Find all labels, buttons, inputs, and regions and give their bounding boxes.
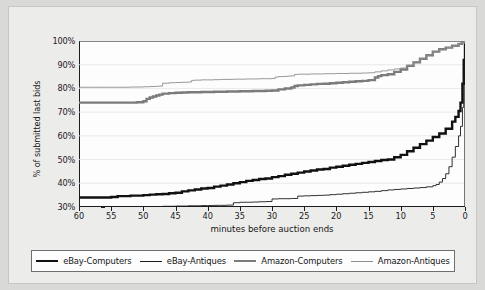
x-tick-mark (240, 207, 241, 211)
y-tick-label: 70% (15, 107, 75, 117)
chart-panel: % of submitted last bids 30%40%50%60%70%… (8, 6, 477, 284)
legend-item[interactable]: Amazon-Antiques (351, 256, 450, 266)
chart-legend: eBay-ComputerseBay-AntiquesAmazon-Comput… (31, 250, 455, 272)
x-tick-mark (208, 207, 209, 211)
x-tick-label: 40 (196, 211, 220, 221)
chart-figure: % of submitted last bids 30%40%50%60%70%… (0, 0, 485, 290)
legend-swatch-line-icon (234, 260, 256, 262)
x-tick-label: 15 (357, 211, 381, 221)
x-tick-label: 35 (228, 211, 252, 221)
x-axis-title: minutes before auction ends (79, 224, 465, 234)
legend-label: eBay-Computers (63, 256, 131, 266)
y-tick-label: 30% (15, 202, 75, 212)
x-tick-label: 20 (324, 211, 348, 221)
y-tick-label: 60% (15, 131, 75, 141)
x-tick-label: 55 (99, 211, 123, 221)
x-tick-mark (433, 207, 434, 211)
series-line-amazon-computers (79, 41, 465, 103)
y-axis-tick-labels: 30%40%50%60%70%80%90%100% (35, 41, 75, 207)
y-tick-label: 80% (15, 83, 75, 93)
x-tick-mark (465, 207, 466, 211)
x-tick-mark (369, 207, 370, 211)
x-tick-label: 30 (260, 211, 284, 221)
x-tick-mark (143, 207, 144, 211)
x-tick-label: 45 (164, 211, 188, 221)
x-tick-mark (272, 207, 273, 211)
x-tick-label: 50 (131, 211, 155, 221)
legend-swatch-line-icon (140, 261, 162, 262)
legend-item[interactable]: eBay-Antiques (140, 256, 226, 266)
y-tick-label: 50% (15, 155, 75, 165)
x-tick-mark (176, 207, 177, 211)
legend-label: Amazon-Computers (261, 256, 342, 266)
x-tick-mark (336, 207, 337, 211)
x-tick-label: 0 (453, 211, 477, 221)
x-tick-mark (401, 207, 402, 211)
x-tick-label: 60 (67, 211, 91, 221)
y-tick-label: 40% (15, 178, 75, 188)
x-tick-mark (304, 207, 305, 211)
legend-swatch-line-icon (351, 261, 373, 262)
legend-item[interactable]: Amazon-Computers (234, 256, 342, 266)
y-tick-label: 90% (15, 60, 75, 70)
legend-label: Amazon-Antiques (378, 256, 450, 266)
x-tick-label: 5 (421, 211, 445, 221)
plot-area-wrapper (79, 41, 465, 207)
legend-swatch-line-icon (36, 260, 58, 262)
x-tick-label: 25 (292, 211, 316, 221)
y-tick-label: 100% (15, 36, 75, 46)
x-tick-mark (111, 207, 112, 211)
x-tick-label: 10 (389, 211, 413, 221)
legend-label: eBay-Antiques (167, 256, 226, 266)
legend-item[interactable]: eBay-Computers (36, 256, 131, 266)
series-line-amazon-antiques (79, 41, 465, 87)
y-tick-mark (101, 207, 105, 208)
chart-series-svg (79, 41, 465, 207)
series-line-ebay-antiques (163, 41, 465, 206)
x-tick-mark (79, 207, 80, 211)
